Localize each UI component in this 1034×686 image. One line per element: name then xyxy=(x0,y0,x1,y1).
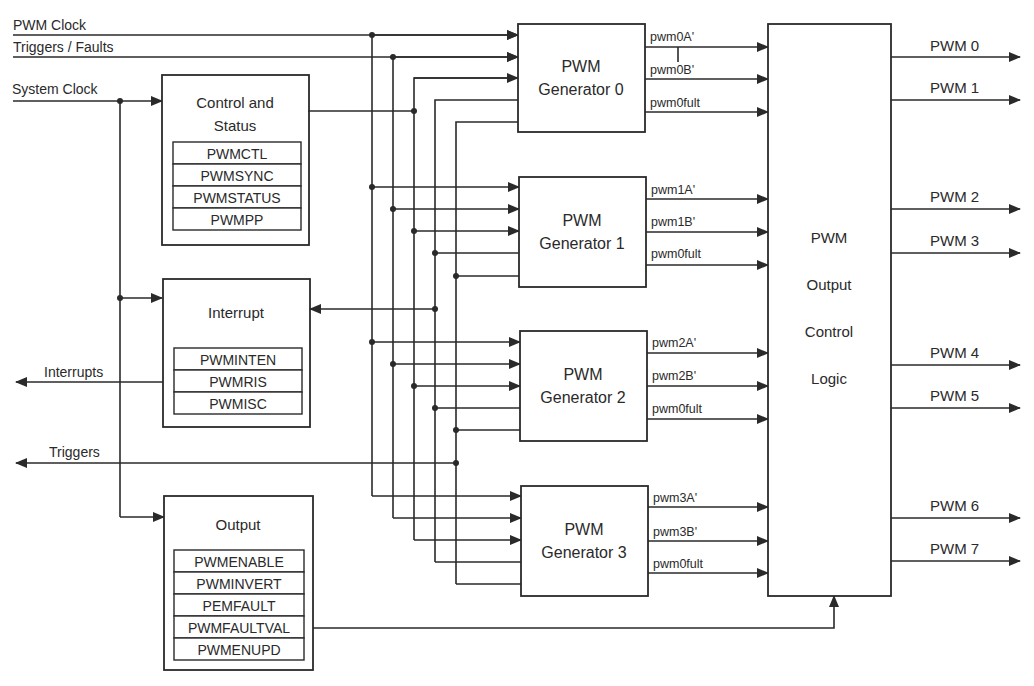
pwm-generator-0: PWM Generator 0 pwm0A' pwm0B' pwm0fult xyxy=(518,24,768,132)
output-control-title-1: PWM xyxy=(811,229,848,246)
register-pwmctl: PWMCTL xyxy=(207,146,268,162)
triggers-faults-label: Triggers / Faults xyxy=(13,39,114,55)
pwm-output-4-label: PWM 4 xyxy=(930,344,979,361)
register-pwmisc: PWMISC xyxy=(209,396,267,412)
signal-pwm2b: pwm2B' xyxy=(652,369,696,383)
output-control-title-3: Control xyxy=(805,323,853,340)
pwm-output-5-label: PWM 5 xyxy=(930,387,979,404)
generator-3-title-2: Generator 3 xyxy=(541,544,626,561)
signal-pwm0a: pwm0A' xyxy=(650,30,694,44)
pwm-clock-label: PWM Clock xyxy=(13,17,87,33)
signal-pwm3fault: pwm0fult xyxy=(653,557,704,571)
generator-1-title-1: PWM xyxy=(562,212,601,229)
control-status-title-1: Control and xyxy=(196,94,274,111)
pwm-output-3-label: PWM 3 xyxy=(930,232,979,249)
register-pwmenupd: PWMENUPD xyxy=(197,642,280,658)
signal-pwm1fault: pwm0fult xyxy=(651,247,702,261)
pwm-output-7-label: PWM 7 xyxy=(930,540,979,557)
pwm-output-1-label: PWM 1 xyxy=(930,79,979,96)
signal-pwm2fault: pwm0fult xyxy=(652,402,703,416)
pwm-generator-1: PWM Generator 1 pwm1A' pwm1B' pwm0fult xyxy=(519,177,768,287)
register-pwminten: PWMINTEN xyxy=(200,352,276,368)
signal-pwm1b: pwm1B' xyxy=(651,215,695,229)
pwm-generator-2: PWM Generator 2 pwm2A' pwm2B' pwm0fult xyxy=(520,331,768,441)
signal-pwm2a: pwm2A' xyxy=(652,336,696,350)
register-pwmsync: PWMSYNC xyxy=(200,168,273,184)
pwm-output-6-label: PWM 6 xyxy=(930,497,979,514)
pwm-output-0-label: PWM 0 xyxy=(930,37,979,54)
register-pwmfaultval: PWMFAULTVAL xyxy=(188,620,290,636)
signal-pwm0fault: pwm0fult xyxy=(650,96,701,110)
output-control-title-2: Output xyxy=(806,276,852,293)
signal-pwm3b: pwm3B' xyxy=(653,525,697,539)
generator-2-title-2: Generator 2 xyxy=(540,389,625,406)
register-pwmstatus: PWMSTATUS xyxy=(193,190,280,206)
pwm-block-diagram: PWM Clock Triggers / Faults System Clock… xyxy=(0,0,1034,686)
generator-2-title-1: PWM xyxy=(563,366,602,383)
control-status-title-2: Status xyxy=(214,117,257,134)
fault-value-line xyxy=(313,596,834,628)
pwm-generator-3: PWM Generator 3 pwm3A' pwm3B' pwm0fult xyxy=(521,486,768,596)
generator-1-title-2: Generator 1 xyxy=(539,235,624,252)
pwm-outputs: PWM 0 PWM 1 PWM 2 PWM 3 PWM 4 PWM 5 PWM … xyxy=(891,37,1020,561)
register-pwmenable: PWMENABLE xyxy=(194,554,283,570)
signal-pwm0b: pwm0B' xyxy=(650,63,694,77)
register-pwminvert: PWMINVERT xyxy=(196,576,282,592)
signal-bus xyxy=(369,32,521,584)
generator-0-title-2: Generator 0 xyxy=(538,81,623,98)
system-clock-label: System Clock xyxy=(12,81,99,97)
signal-pwm1a: pwm1A' xyxy=(651,183,695,197)
generator-3-title-1: PWM xyxy=(564,521,603,538)
triggers-label: Triggers xyxy=(49,444,100,460)
register-pwmris: PWMRIS xyxy=(209,374,267,390)
interrupts-label: Interrupts xyxy=(44,364,103,380)
pwm-clock-line: PWM Clock xyxy=(13,17,518,35)
pwm-output-control-logic: PWM Output Control Logic xyxy=(768,24,891,596)
register-pwmpp: PWMPP xyxy=(211,212,264,228)
output-control-title-4: Logic xyxy=(811,370,847,387)
interrupt-block: Interrupt PWMINTEN PWMRIS PWMISC xyxy=(163,279,310,427)
signal-pwm3a: pwm3A' xyxy=(653,491,697,505)
register-pemfault: PEMFAULT xyxy=(203,598,276,614)
output-block: Output PWMENABLE PWMINVERT PEMFAULT PWMF… xyxy=(164,496,313,670)
interrupt-title: Interrupt xyxy=(208,304,265,321)
triggers-faults-line: Triggers / Faults xyxy=(13,39,518,57)
interrupt-input-line xyxy=(310,306,438,312)
control-status-block: Control and Status PWMCTL PWMSYNC PWMSTA… xyxy=(162,75,309,245)
pwm-output-2-label: PWM 2 xyxy=(930,188,979,205)
output-title: Output xyxy=(215,516,261,533)
interrupts-output-line: Interrupts xyxy=(16,364,163,382)
generator-0-title-1: PWM xyxy=(561,58,600,75)
